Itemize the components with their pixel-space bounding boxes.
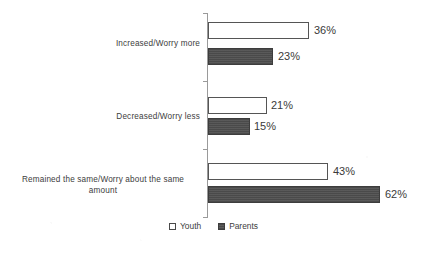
bar-parents-increased-worry-more[interactable] — [208, 48, 273, 65]
bar-youth-increased-worry-more[interactable] — [208, 22, 309, 39]
legend-item-youth[interactable]: Youth — [169, 221, 201, 231]
legend-label-youth: Youth — [180, 221, 201, 231]
value-label-youth-remained-the-same: 43% — [333, 163, 355, 180]
legend-label-parents: Parents — [229, 221, 258, 231]
bar-parents-remained-the-same[interactable] — [208, 186, 380, 203]
category-label-0: Increased/Worry more — [4, 38, 200, 49]
legend-swatch-parents-icon — [218, 223, 225, 230]
category-label-1: Decreased/Worry less — [4, 111, 200, 122]
category-label-2: Remained the same/Worry about the sameam… — [2, 174, 204, 196]
category-label-2-line1: Remained the same/Worry about the same — [22, 175, 184, 184]
value-label-youth-increased-worry-more: 36% — [314, 22, 336, 39]
value-label-parents-remained-the-same: 62% — [385, 186, 407, 203]
axis-tick-bottom — [203, 217, 208, 218]
value-label-parents-increased-worry-more: 23% — [278, 48, 300, 65]
legend-swatch-youth-icon — [169, 223, 176, 230]
value-label-parents-decreased-worry-less: 15% — [254, 118, 276, 135]
bar-youth-decreased-worry-less[interactable] — [208, 97, 267, 114]
value-label-youth-decreased-worry-less: 21% — [271, 97, 293, 114]
category-label-2-line2: amount — [89, 186, 117, 195]
chart-legend: Youth Parents — [0, 221, 427, 231]
axis-tick-top — [203, 13, 208, 14]
axis-tick-2 — [203, 149, 208, 150]
axis-tick-1 — [203, 81, 208, 82]
legend-item-parents[interactable]: Parents — [218, 221, 258, 231]
bar-parents-decreased-worry-less[interactable] — [208, 118, 250, 135]
bar-youth-remained-the-same[interactable] — [208, 163, 328, 180]
plot-area: Increased/Worry more 36% 23% Decreased/W… — [0, 0, 427, 253]
bar-chart: Increased/Worry more 36% 23% Decreased/W… — [0, 0, 427, 253]
